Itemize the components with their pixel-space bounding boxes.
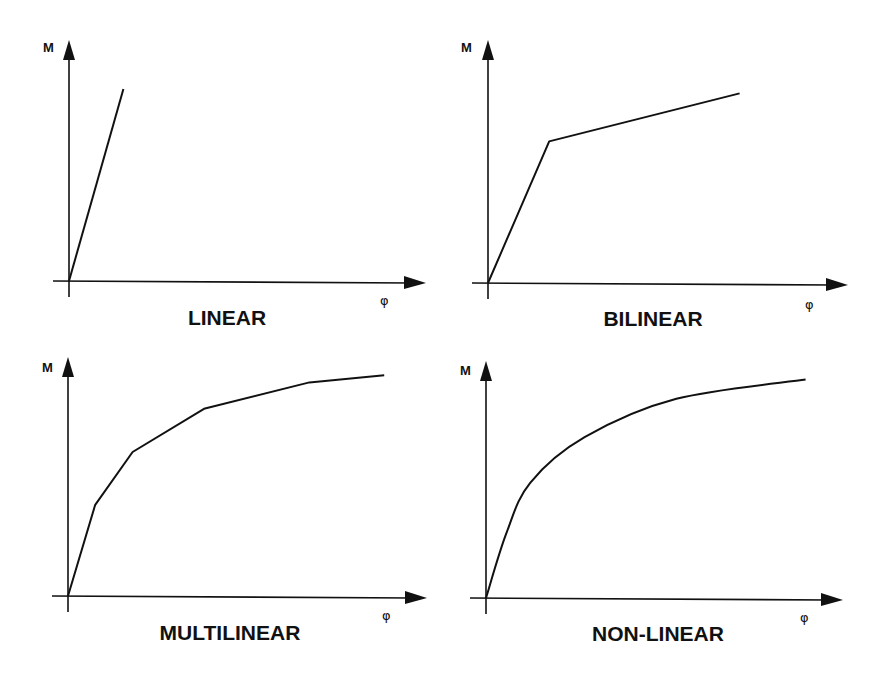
y-axis-label: M	[42, 360, 53, 375]
panel-multilinear: M φ MULTILINEAR	[42, 357, 427, 644]
y-axis-label: M	[43, 40, 54, 55]
y-axis-label: M	[461, 40, 472, 55]
x-axis-arrow-icon	[405, 591, 427, 604]
panel-title: LINEAR	[188, 306, 266, 329]
y-axis-arrow-icon	[480, 361, 492, 381]
x-axis-arrow-icon	[826, 278, 848, 291]
panel-linear: M φ LINEAR	[43, 40, 426, 329]
panel-title: BILINEAR	[603, 307, 702, 330]
panel-title: NON-LINEAR	[592, 622, 724, 645]
x-axis-line	[472, 283, 834, 285]
x-axis-arrow-icon	[404, 276, 426, 289]
x-axis-line	[53, 281, 412, 283]
x-axis-label: φ	[382, 608, 391, 623]
y-axis-label: M	[460, 363, 471, 378]
panel-title: MULTILINEAR	[160, 621, 301, 644]
moment-curvature-line	[488, 93, 740, 283]
x-axis-label: φ	[805, 297, 814, 312]
panel-non-linear: M φ NON-LINEAR	[460, 361, 843, 645]
x-axis-line	[52, 596, 413, 598]
moment-curvature-line	[486, 380, 806, 598]
moment-curvature-line	[68, 375, 384, 596]
x-axis-line	[470, 598, 829, 600]
moment-curvature-diagrams: M φ LINEAR M φ BILINEAR M φ MULTILINEAR …	[0, 0, 891, 685]
y-axis-arrow-icon	[63, 40, 75, 60]
moment-curvature-line	[69, 89, 123, 281]
x-axis-label: φ	[800, 610, 809, 625]
y-axis-arrow-icon	[482, 40, 494, 60]
x-axis-arrow-icon	[821, 593, 843, 606]
x-axis-label: φ	[380, 293, 389, 308]
panel-bilinear: M φ BILINEAR	[461, 40, 848, 330]
y-axis-arrow-icon	[62, 357, 74, 377]
